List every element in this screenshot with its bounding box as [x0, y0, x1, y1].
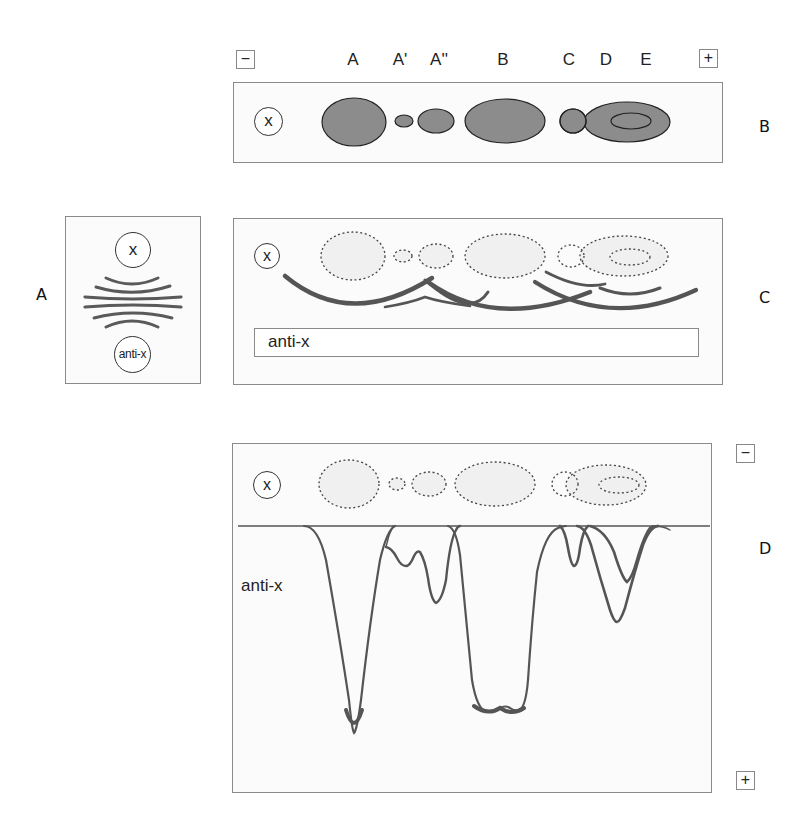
well-x-panel-d: x [253, 471, 281, 499]
peak-b [448, 526, 566, 712]
peak-d [577, 526, 658, 622]
panel-label-d: D [759, 539, 771, 558]
anti-x-label-panel-d: anti-x [241, 576, 283, 596]
diffused-band-a-d [319, 460, 379, 508]
panel-d-drawing [0, 0, 812, 826]
peak-a [304, 526, 395, 733]
diffused-band-a-double-prime-d [412, 472, 446, 496]
diffused-band-a-prime-d [389, 478, 405, 490]
diffused-band-b-d [455, 462, 535, 506]
peak-a-prime [386, 526, 460, 603]
